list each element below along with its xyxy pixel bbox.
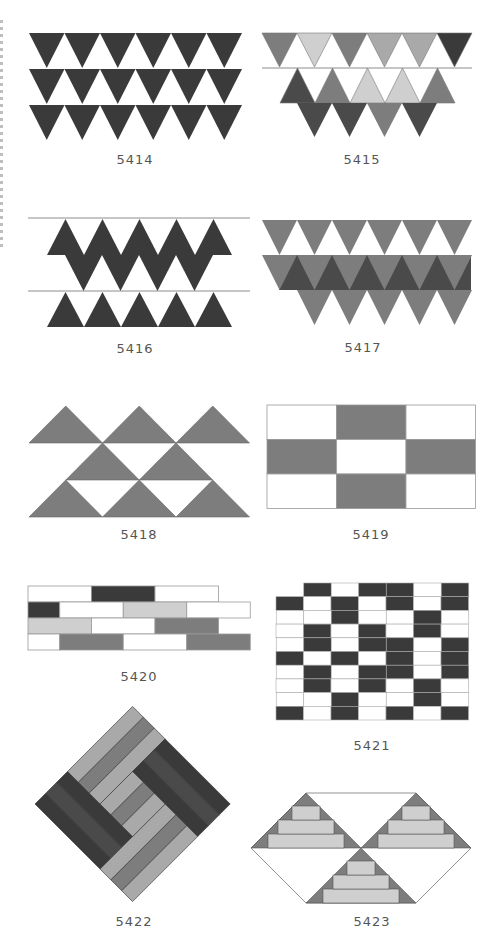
pattern-5417 [262,219,476,327]
layered-triangles-graphic [262,219,476,327]
pattern-label: 5417 [344,340,381,355]
pattern-5422 [28,706,240,902]
pattern-label: 5419 [352,527,389,542]
pattern-label: 5414 [116,152,153,167]
pattern-label: 5421 [353,738,390,753]
rectangle-checker-graphic [267,405,476,509]
half-square-triangles-graphic [29,406,249,517]
pattern-label: 5422 [115,914,152,929]
pattern-5423 [250,791,472,904]
pattern-label: 5418 [120,527,157,542]
brick-diamond-graphic [276,583,470,720]
interwoven-planks-graphic [28,706,240,902]
pattern-5419 [267,405,476,509]
stepped-pyramids-graphic [250,791,472,904]
pattern-label: 5423 [353,914,390,929]
pattern-5415 [262,33,472,141]
pattern-5416 [28,217,250,329]
pattern-label: 5416 [116,341,153,356]
pattern-5418 [29,406,249,517]
page-edge-bleed [0,20,3,250]
pattern-5414 [29,33,242,141]
running-bond-bricks-graphic [28,586,252,651]
pattern-5420 [28,586,252,651]
pattern-label: 5420 [120,669,157,684]
pattern-label: 5415 [343,152,380,167]
gray-triangle-bands-graphic [262,33,472,141]
diamond-zigzag-graphic [28,217,250,329]
pattern-5421 [276,583,470,720]
triangle-rows-graphic [29,33,242,141]
